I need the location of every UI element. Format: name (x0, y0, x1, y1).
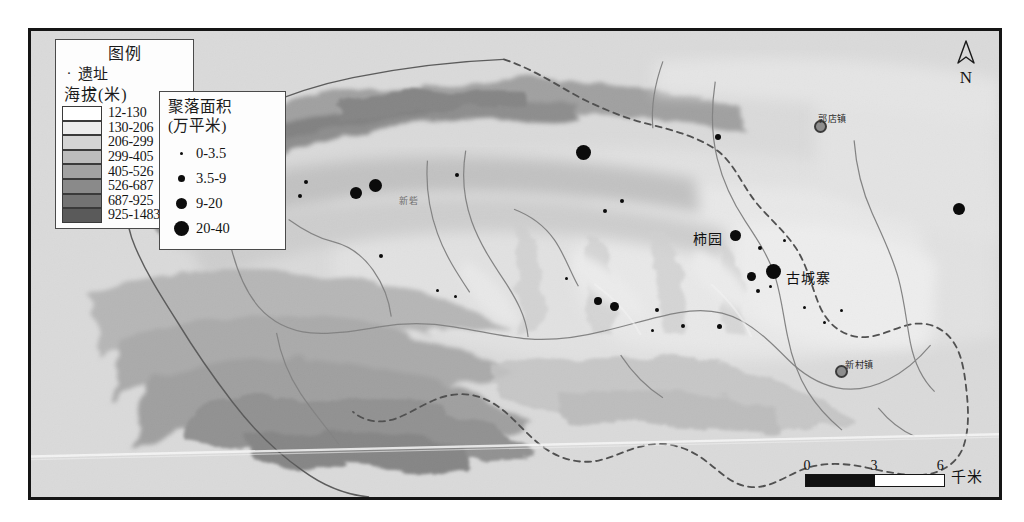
settlement-site-dot[interactable] (747, 272, 756, 281)
elevation-swatch (62, 106, 102, 121)
scale-tick-0: 0 (804, 458, 811, 474)
settlement-site-dot[interactable] (651, 329, 654, 332)
settlement-site-dot[interactable] (840, 309, 843, 312)
north-arrow-icon (955, 39, 977, 65)
north-letter: N (951, 70, 981, 85)
settlement-site-dot[interactable] (298, 194, 302, 198)
legend-size-title-line1: 聚落面积 (168, 97, 280, 116)
legend-site-label: 遗址 (78, 66, 108, 82)
site-symbol-icon: · (64, 63, 74, 83)
legend-site-row: · 遗址 (62, 63, 188, 84)
settlement-site-dot[interactable] (304, 180, 308, 184)
settlement-site-dot[interactable] (715, 134, 721, 140)
settlement-site-dot[interactable] (681, 324, 685, 328)
settlement-size-class-list: 0-3.53.5-99-2020-40 (168, 141, 280, 241)
legend-title: 图例 (62, 44, 188, 63)
settlement-site-dot[interactable] (565, 277, 568, 280)
settlement-site-dot[interactable] (717, 324, 722, 329)
scale-tick-3: 3 (871, 458, 878, 474)
north-arrow: N (951, 39, 981, 85)
map-label-guodianzhen: 郭店镇 (818, 112, 847, 125)
elevation-swatch (62, 164, 102, 179)
settlement-size-dot-wrap (168, 198, 194, 209)
scale-rail (805, 474, 945, 487)
elevation-range-label: 206-299 (108, 134, 153, 150)
legend-size-title-line2: (万平米) (168, 116, 280, 135)
map-label-shiyuan: 柿园 (693, 228, 723, 248)
settlement-size-dot (174, 221, 189, 236)
settlement-size-label: 0-3.5 (196, 145, 226, 162)
map-label-guchengzhai: 古城寨 (786, 267, 831, 287)
elevation-range-label: 687-925 (108, 193, 153, 209)
elevation-range-label: 130-206 (108, 120, 153, 136)
elevation-swatch (62, 194, 102, 209)
scale-segment-empty (875, 475, 944, 486)
settlement-size-dot (180, 152, 183, 155)
settlement-size-label: 3.5-9 (196, 170, 226, 187)
settlement-site-dot[interactable] (436, 289, 439, 292)
elevation-range-label: 12-130 (108, 105, 146, 121)
settlement-size-dot (178, 175, 185, 182)
settlement-site-dot[interactable] (576, 145, 591, 160)
settlement-site-dot[interactable] (756, 289, 760, 293)
settlement-site-dot[interactable] (766, 264, 781, 279)
settlement-site-dot[interactable] (769, 285, 772, 288)
settlement-site-dot[interactable] (953, 203, 965, 215)
settlement-size-label: 9-20 (196, 195, 223, 212)
settlement-size-dot-wrap (168, 175, 194, 182)
settlement-site-dot[interactable] (823, 321, 826, 324)
settlement-site-dot[interactable] (758, 246, 762, 250)
settlement-size-dot-wrap (168, 221, 194, 236)
settlement-site-dot[interactable] (594, 297, 602, 305)
settlement-site-dot[interactable] (655, 308, 659, 312)
elevation-range-label: 299-405 (108, 149, 153, 165)
elevation-swatch (62, 179, 102, 194)
map-label-xinzhai: 新砦 (399, 194, 418, 207)
settlement-site-dot[interactable] (603, 209, 607, 213)
settlement-site-dot[interactable] (803, 306, 806, 309)
settlement-site-dot[interactable] (730, 230, 741, 241)
scale-segment-filled (806, 475, 875, 486)
settlement-site-dot[interactable] (369, 179, 382, 192)
scale-ticks: 0 3 6 (805, 459, 943, 474)
elevation-swatch (62, 150, 102, 165)
settlement-site-dot[interactable] (620, 199, 624, 203)
settlement-site-dot[interactable] (379, 254, 383, 258)
settlement-site-dot[interactable] (783, 239, 786, 242)
legend-settlement-size: 聚落面积 (万平米) 0-3.53.5-99-2020-40 (159, 91, 286, 250)
elevation-swatch (62, 208, 102, 223)
settlement-site-dot[interactable] (610, 302, 619, 311)
scale-tick-6: 6 (937, 458, 944, 474)
settlement-size-dot (176, 198, 187, 209)
settlement-size-row: 0-3.5 (168, 141, 280, 166)
map-label-xincunzhen: 新村镇 (845, 358, 874, 371)
settlement-site-dot[interactable] (454, 295, 457, 298)
elevation-range-label: 405-526 (108, 164, 153, 180)
settlement-site-dot[interactable] (455, 173, 459, 177)
settlement-size-row: 9-20 (168, 191, 280, 216)
scale-bar: 0 3 6 千米 (805, 459, 983, 487)
figure-page: 柿园古城寨郭店镇新村镇新砦 N 0 3 6 千米 (0, 0, 1024, 522)
elevation-swatch (62, 121, 102, 136)
scale-unit-label: 千米 (951, 465, 983, 487)
settlement-size-label: 20-40 (196, 220, 230, 237)
elevation-range-label: 925-1483 (108, 207, 160, 223)
map-frame: 柿园古城寨郭店镇新村镇新砦 N 0 3 6 千米 (28, 28, 1002, 500)
settlement-size-row: 3.5-9 (168, 166, 280, 191)
elevation-range-label: 526-687 (108, 178, 153, 194)
elevation-swatch (62, 135, 102, 150)
settlement-size-row: 20-40 (168, 216, 280, 241)
settlement-site-dot[interactable] (350, 187, 362, 199)
settlement-size-dot-wrap (168, 152, 194, 155)
